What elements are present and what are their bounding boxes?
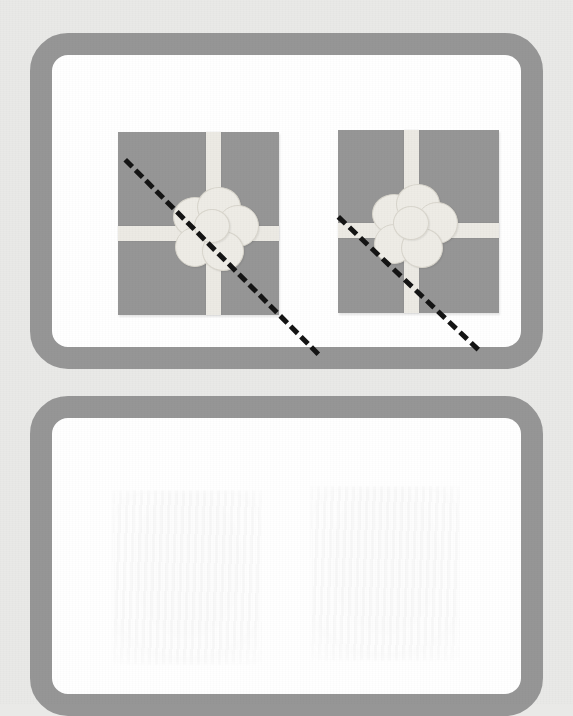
bow-petal-center xyxy=(393,206,429,240)
bleed-through-ghost-1 xyxy=(112,490,262,665)
figure-panel-inner: Gift boxes with dashed lines xyxy=(52,55,521,347)
bleed-through-ghost-2 xyxy=(310,486,460,661)
answer-panel-label: Empty answer area xyxy=(52,418,53,419)
ribbon-bow-1 xyxy=(169,185,261,277)
gift-box-figure-2 xyxy=(338,130,499,313)
answer-panel-inner[interactable]: Empty answer area xyxy=(52,418,521,694)
figure-panel-label: Gift boxes with dashed lines xyxy=(52,55,53,56)
answer-panel[interactable]: Empty answer area xyxy=(30,396,543,716)
answer-panel-content xyxy=(52,418,53,419)
figure-panel: Gift boxes with dashed lines xyxy=(30,33,543,369)
